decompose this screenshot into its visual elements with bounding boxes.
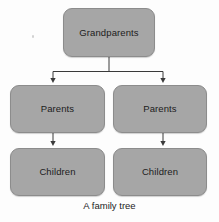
node-grandparents-label: Grandparents bbox=[79, 28, 138, 38]
node-children-right: Children bbox=[113, 148, 207, 196]
node-children-right-label: Children bbox=[142, 167, 178, 177]
node-grandparents: Grandparents bbox=[63, 8, 155, 57]
diagram-caption: A family tree bbox=[0, 201, 219, 211]
node-children-left-label: Children bbox=[39, 167, 75, 177]
node-children-left: Children bbox=[10, 148, 105, 196]
node-parents-left-label: Parents bbox=[41, 104, 74, 114]
node-parents-left: Parents bbox=[10, 85, 105, 133]
family-tree-diagram: Grandparents Parents Parents Children Ch… bbox=[0, 0, 219, 222]
node-parents-right: Parents bbox=[113, 85, 207, 133]
node-parents-right-label: Parents bbox=[143, 104, 176, 114]
scan-speck-artifact bbox=[32, 35, 34, 38]
